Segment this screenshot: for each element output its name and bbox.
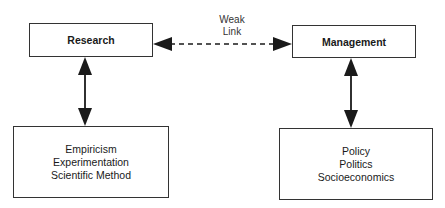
management-label: Management [322, 36, 386, 48]
management-factors-node: Policy Politics Socioeconomics [279, 128, 433, 200]
method-item: Experimentation [53, 156, 129, 169]
factor-item: Policy [342, 145, 370, 158]
management-node: Management [292, 25, 416, 58]
research-node: Research [29, 23, 153, 57]
research-label: Research [67, 34, 114, 46]
weak-link-label: Weak Link [207, 14, 257, 38]
arrowhead-down-icon [78, 108, 92, 126]
factor-item: Politics [339, 158, 372, 171]
research-methods-node: Empiricism Experimentation Scientific Me… [13, 126, 169, 198]
method-item: Scientific Method [51, 169, 131, 182]
method-item: Empiricism [65, 143, 116, 156]
arrowhead-up-icon [78, 57, 92, 75]
weak-link-arrow [153, 37, 292, 51]
arrowhead-up-icon [344, 58, 358, 76]
arrowhead-left-icon [153, 37, 172, 51]
management-link-arrow [344, 58, 358, 128]
research-link-arrow [78, 57, 92, 126]
factor-item: Socioeconomics [318, 171, 394, 184]
arrowhead-down-icon [344, 110, 358, 128]
arrowhead-right-icon [273, 37, 292, 51]
